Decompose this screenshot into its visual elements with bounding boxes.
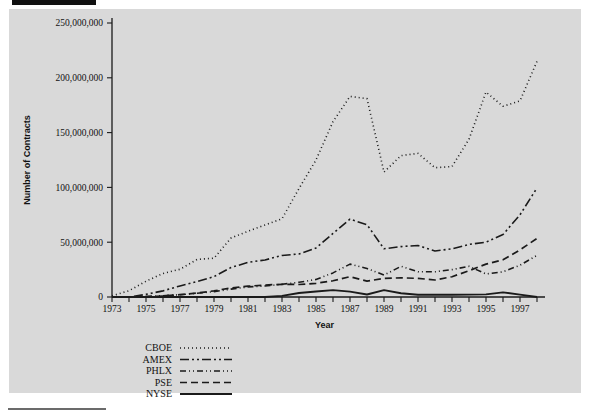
line-chart: 050,000,000100,000,000150,000,000200,000… [0,0,590,419]
x-tick-label: 1977 [171,304,190,314]
x-tick-label: 1989 [375,304,394,314]
x-tick-label: 1991 [409,304,428,314]
series-line-pse [112,238,537,297]
x-tick-label: 1995 [477,304,496,314]
y-tick-label: 200,000,000 [56,73,104,83]
y-axis-title: Number of Contracts [22,115,32,205]
legend-label-cboe: CBOE [145,342,172,353]
x-tick-label: 1975 [137,304,156,314]
legend-label-amex: AMEX [143,354,173,365]
series-line-cboe [112,61,537,295]
y-tick-label: 150,000,000 [56,128,104,138]
y-tick-label: 50,000,000 [60,238,103,248]
x-tick-label: 1987 [341,304,360,314]
series-line-amex [112,188,537,297]
legend-label-pse: PSE [155,377,172,388]
legend-label-phlx: PHLX [146,365,173,376]
series-line-nyse [112,290,537,297]
x-tick-label: 1997 [511,304,530,314]
y-tick-label: 0 [98,292,103,302]
x-tick-label: 1979 [205,304,224,314]
y-tick-label: 250,000,000 [56,18,104,28]
x-tick-label: 1973 [103,304,122,314]
legend-label-nyse: NYSE [146,388,172,399]
x-tick-label: 1981 [239,304,258,314]
x-tick-label: 1993 [443,304,462,314]
x-tick-label: 1985 [307,304,326,314]
x-axis-title: Year [315,320,335,330]
x-tick-label: 1983 [273,304,292,314]
y-tick-label: 100,000,000 [56,183,104,193]
